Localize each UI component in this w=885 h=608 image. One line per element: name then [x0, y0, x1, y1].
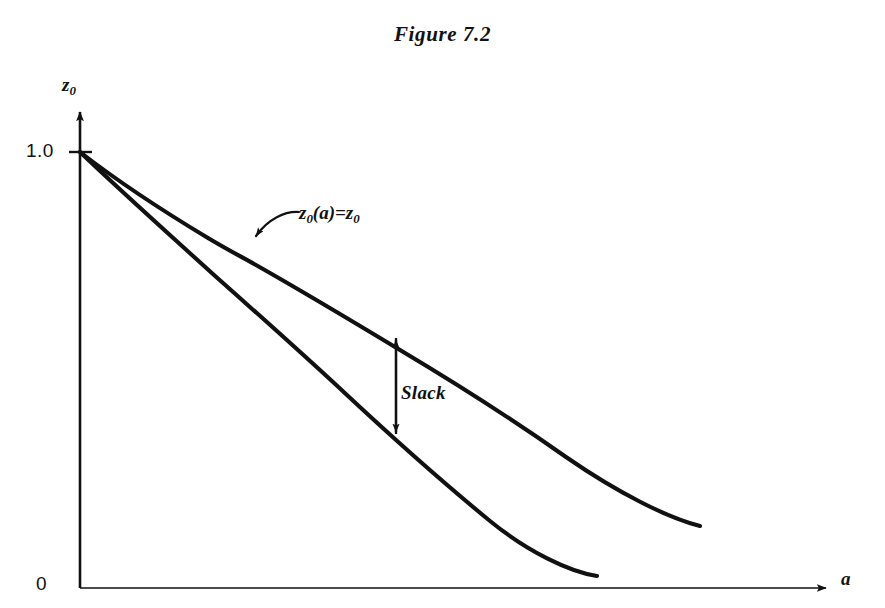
curve-label-z-subscript-2: 0 [353, 211, 359, 226]
curve-z0-of-a [80, 152, 700, 526]
figure-container: Figure 7.2 z0 a [0, 0, 885, 608]
figure-drawing-canvas [0, 0, 885, 608]
y-axis-label: z0 [62, 74, 76, 99]
y-axis-label-subscript: 0 [69, 83, 75, 98]
slack-label: Slack [401, 382, 446, 404]
curve-label-middle: (a)= [313, 202, 346, 223]
curve-equation-label: z0(a)=z0 [299, 203, 360, 226]
x-axis-label: a [841, 568, 851, 590]
curve-label-leader-arrow [256, 212, 299, 236]
origin-label: 0 [36, 573, 47, 595]
y-axis-tick-label-1-0: 1.0 [26, 140, 54, 162]
